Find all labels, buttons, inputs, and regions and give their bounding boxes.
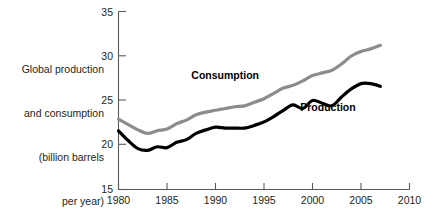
series-line-production xyxy=(119,83,381,150)
y-tick-labels: 35 30 25 20 15 xyxy=(101,6,113,196)
y-tick-label-35: 35 xyxy=(101,6,113,18)
x-tick-label-1980: 1980 xyxy=(107,194,131,206)
y-tick-label-20: 20 xyxy=(101,138,113,150)
x-tick-marks xyxy=(119,183,410,190)
chart-figure: Global production and consumption (billi… xyxy=(0,0,438,216)
y-tick-marks xyxy=(119,12,127,190)
y-tick-label-25: 25 xyxy=(101,94,113,106)
plot-area: 35 30 25 20 15 1980 1985 1990 1995 2000 … xyxy=(0,0,438,216)
x-tick-label-1995: 1995 xyxy=(252,194,276,206)
series-line-consumption xyxy=(119,45,381,133)
y-tick-label-30: 30 xyxy=(101,50,113,62)
x-tick-label-2005: 2005 xyxy=(349,194,373,206)
x-tick-label-2000: 2000 xyxy=(301,194,325,206)
x-tick-label-2010: 2010 xyxy=(398,194,422,206)
series-label-consumption: Consumption xyxy=(191,69,259,81)
x-tick-label-1990: 1990 xyxy=(204,194,228,206)
series-label-production: Production xyxy=(300,101,355,113)
x-tick-labels: 1980 1985 1990 1995 2000 2005 2010 xyxy=(107,194,422,206)
x-tick-label-1985: 1985 xyxy=(155,194,179,206)
